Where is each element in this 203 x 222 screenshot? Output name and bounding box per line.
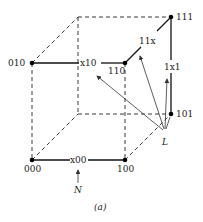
arrow-to-1x1 — [165, 79, 167, 129]
label-111: 111 — [176, 12, 193, 22]
label-101: 101 — [176, 109, 193, 119]
label-11x: 11x — [139, 36, 156, 46]
vertex-101-dot — [169, 112, 174, 117]
label-N: N — [73, 185, 83, 195]
boolean-cube-diagram: 000 100 010 110 111 101 x00 x10 11x 1x1 … — [0, 0, 203, 222]
label-L: L — [161, 137, 168, 147]
label-010: 010 — [8, 58, 25, 68]
vertex-100-dot — [123, 158, 128, 163]
label-x00: x00 — [70, 155, 87, 165]
label-100: 100 — [117, 164, 134, 174]
arrow-to-11x — [140, 56, 164, 129]
figure-caption: (a) — [94, 202, 107, 212]
label-000: 000 — [24, 164, 41, 174]
label-x10: x10 — [80, 58, 97, 68]
vertex-000-dot — [30, 158, 35, 163]
arrow-to-x10 — [97, 76, 163, 130]
label-1x1: 1x1 — [164, 62, 181, 72]
vertex-010-dot — [30, 61, 35, 66]
vertex-111-dot — [169, 15, 174, 20]
label-110: 110 — [108, 66, 125, 76]
vertex-110-dot — [123, 61, 128, 66]
